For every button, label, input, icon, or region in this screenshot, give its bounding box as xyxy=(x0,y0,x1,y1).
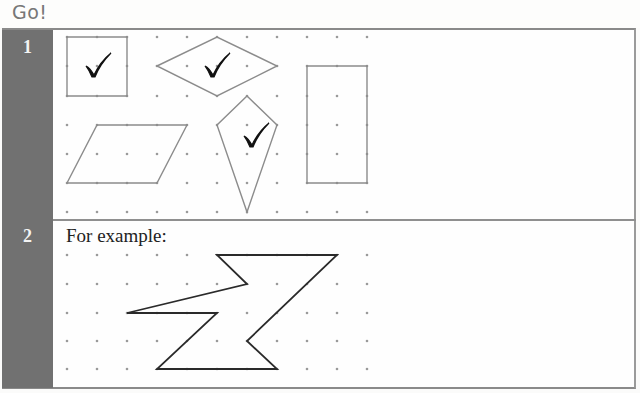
grid-dot xyxy=(96,368,99,371)
check-mark-icon xyxy=(244,123,269,147)
grid-dot xyxy=(366,312,369,315)
grid-dot xyxy=(156,283,159,286)
grid-dot xyxy=(246,124,249,127)
grid-dot xyxy=(66,283,69,286)
grid-dot xyxy=(366,211,369,214)
grid-dot xyxy=(306,340,309,343)
grid-dot xyxy=(186,153,189,156)
grid-dot xyxy=(66,340,69,343)
grid-dot xyxy=(306,368,309,371)
grid-dot xyxy=(246,312,249,315)
grid-dot xyxy=(366,283,369,286)
grid-dot xyxy=(336,211,339,214)
grid-dot xyxy=(156,36,159,39)
grid-dot xyxy=(366,368,369,371)
grid-dot xyxy=(366,36,369,39)
grid-dot xyxy=(216,182,219,185)
grid-dot xyxy=(126,254,129,257)
grid-dot xyxy=(156,340,159,343)
grid-dot xyxy=(66,312,69,315)
shapes-exercise-2 xyxy=(127,255,337,369)
grid-dot xyxy=(216,153,219,156)
grid-dot xyxy=(66,153,69,156)
grid-dot xyxy=(186,65,189,68)
grid-dot xyxy=(336,340,339,343)
grid-dot xyxy=(186,254,189,257)
grid-dot xyxy=(96,340,99,343)
grid-dot xyxy=(336,124,339,127)
grid-dot xyxy=(126,283,129,286)
grid-dot xyxy=(186,95,189,98)
grid-dot xyxy=(276,182,279,185)
check-mark-icon xyxy=(86,53,111,77)
grid-dot xyxy=(246,36,249,39)
grid-dot xyxy=(336,153,339,156)
dot-grid-2 xyxy=(66,254,369,371)
grid-dot xyxy=(306,211,309,214)
grid-dot xyxy=(156,254,159,257)
grid-dot xyxy=(276,95,279,98)
grid-dot xyxy=(216,283,219,286)
grid-dot xyxy=(246,182,249,185)
grid-dot xyxy=(336,312,339,315)
grid-dot xyxy=(276,36,279,39)
grid-dot xyxy=(126,340,129,343)
grid-dot xyxy=(186,211,189,214)
grid-dot xyxy=(66,368,69,371)
grid-dot xyxy=(336,368,339,371)
grid-dot xyxy=(156,95,159,98)
grid-dot xyxy=(336,95,339,98)
grid-dot xyxy=(306,36,309,39)
grid-dot xyxy=(366,340,369,343)
grid-dot xyxy=(126,211,129,214)
grid-dot xyxy=(96,283,99,286)
grid-dot xyxy=(156,211,159,214)
grid-dot xyxy=(96,312,99,315)
grid-dot xyxy=(186,182,189,185)
grid-dot xyxy=(96,211,99,214)
grid-dot xyxy=(306,312,309,315)
grid-dot xyxy=(336,283,339,286)
grid-dot xyxy=(276,283,279,286)
grid-dot xyxy=(276,211,279,214)
grid-dot xyxy=(66,124,69,127)
grid-dot xyxy=(246,65,249,68)
grid-dot xyxy=(186,36,189,39)
grid-dot xyxy=(96,254,99,257)
grid-dot xyxy=(276,340,279,343)
shapes-exercise-1 xyxy=(67,37,367,212)
check-marks xyxy=(86,53,269,147)
grid-dot xyxy=(66,254,69,257)
grid-dot xyxy=(216,340,219,343)
grid-dot xyxy=(186,283,189,286)
grid-dot xyxy=(156,153,159,156)
grid-dot xyxy=(66,211,69,214)
grid-dot xyxy=(126,368,129,371)
grid-dot xyxy=(216,211,219,214)
dot-grid-canvas xyxy=(0,0,640,393)
grid-dot xyxy=(366,254,369,257)
grid-dot xyxy=(246,153,249,156)
grid-dot xyxy=(276,153,279,156)
grid-dot xyxy=(336,36,339,39)
z-shape-shape xyxy=(127,255,337,369)
grid-dot xyxy=(126,153,129,156)
grid-dot xyxy=(96,153,99,156)
